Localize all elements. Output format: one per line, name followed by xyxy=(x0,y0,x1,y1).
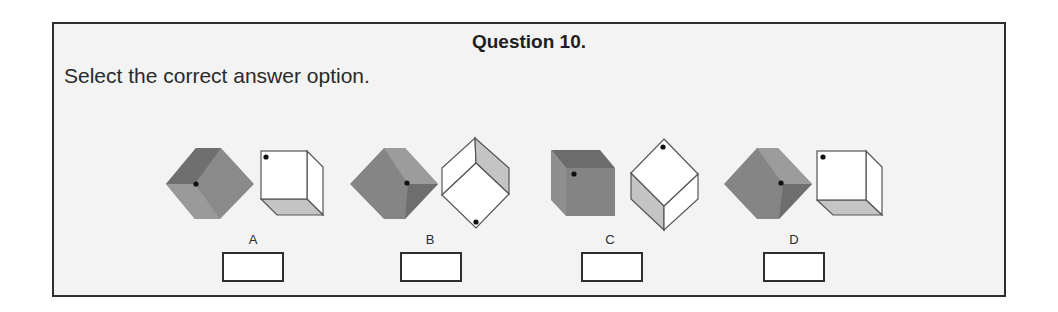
cube-figures xyxy=(54,24,1004,295)
white-cube-icon xyxy=(442,138,509,228)
option-label-d: D xyxy=(779,232,809,247)
white-cube-icon xyxy=(261,151,323,215)
grey-cube-icon xyxy=(551,150,615,216)
grey-cube-icon xyxy=(724,148,812,219)
option-c-figure xyxy=(551,139,698,230)
option-a-figure xyxy=(166,148,323,219)
option-b-figure xyxy=(350,138,509,228)
grey-cube-icon xyxy=(350,148,438,219)
answer-box-d[interactable] xyxy=(763,252,825,282)
answer-box-b[interactable] xyxy=(400,252,462,282)
option-label-b: B xyxy=(415,232,445,247)
option-label-c: C xyxy=(595,232,625,247)
answer-box-a[interactable] xyxy=(222,252,284,282)
answer-box-c[interactable] xyxy=(581,252,643,282)
question-frame: Question 10. Select the correct answer o… xyxy=(52,22,1006,297)
option-d-figure xyxy=(724,148,882,219)
white-cube-icon xyxy=(817,151,882,215)
grey-cube-icon xyxy=(166,148,254,219)
white-cube-icon xyxy=(631,139,698,230)
option-label-a: A xyxy=(238,232,268,247)
